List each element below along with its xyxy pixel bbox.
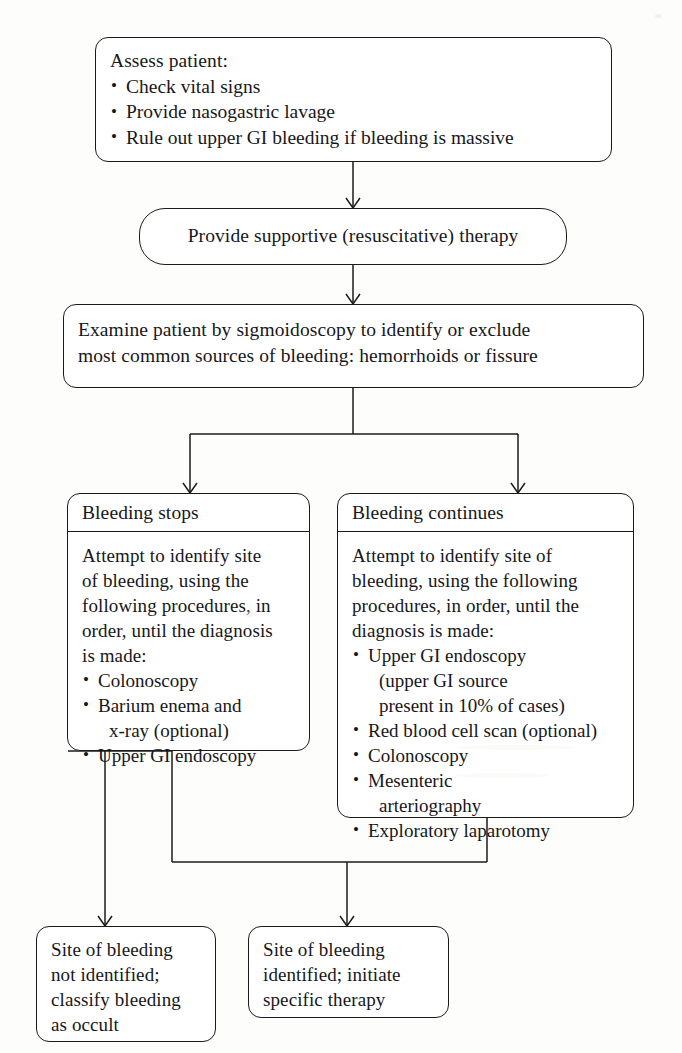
- stops-item-3: Upper GI endoscopy: [82, 743, 296, 768]
- bleeding-stops-body: Attempt to identify site of bleeding, us…: [68, 532, 309, 778]
- stops-line-4: order, until the diagnosis: [82, 618, 296, 643]
- paper-speckle: [655, 14, 662, 18]
- continues-item-2: Red blood cell scan (optional): [352, 718, 620, 743]
- continues-item-1: Upper GI endoscopy: [352, 643, 620, 668]
- occult-line-1: Site of bleeding: [51, 937, 202, 962]
- identified-body: Site of bleeding identified; initiate sp…: [249, 927, 448, 1022]
- arrowhead-examine: [346, 294, 360, 304]
- assess-bullet-3: Rule out upper GI bleeding if bleeding i…: [110, 125, 598, 151]
- node-bleeding-continues: Bleeding continues Attempt to identify s…: [337, 493, 634, 818]
- bleeding-continues-body: Attempt to identify site of bleeding, us…: [338, 532, 633, 853]
- continues-item-4: Mesenteric: [352, 768, 620, 793]
- assess-heading: Assess patient:: [110, 48, 598, 74]
- identified-line-2: identified; initiate: [263, 962, 435, 987]
- stops-item-1: Colonoscopy: [82, 668, 296, 693]
- examine-body: Examine patient by sigmoidoscopy to iden…: [64, 305, 643, 378]
- arrowhead-bleeding-continues: [511, 483, 525, 493]
- paper-speckle: [455, 773, 550, 778]
- continues-line-4: diagnosis is made:: [352, 618, 620, 643]
- stops-line-1: Attempt to identify site: [82, 543, 296, 568]
- continues-item-1-cont-2: present in 10% of cases): [352, 693, 620, 718]
- bleeding-stops-header-row: Bleeding stops: [68, 494, 309, 532]
- arrowhead-supportive: [346, 198, 360, 208]
- node-supportive-therapy: Provide supportive (resuscitative) thera…: [139, 208, 567, 265]
- node-assess-patient: Assess patient: Check vital signs Provid…: [95, 37, 612, 162]
- continues-item-1-cont-1: (upper GI source: [352, 668, 620, 693]
- continues-item-4-cont-1: arteriography: [352, 793, 620, 818]
- bleeding-continues-header-row: Bleeding continues: [338, 494, 633, 532]
- paper-speckle: [243, 611, 257, 617]
- continues-line-2: bleeding, using the following: [352, 568, 620, 593]
- occult-line-3: classify bleeding: [51, 987, 202, 1012]
- node-examine-patient: Examine patient by sigmoidoscopy to iden…: [63, 304, 644, 388]
- supportive-text: Provide supportive (resuscitative) thera…: [188, 223, 519, 249]
- arrowhead-identified: [340, 916, 354, 926]
- stops-line-2: of bleeding, using the: [82, 568, 296, 593]
- bleeding-continues-header: Bleeding continues: [352, 500, 620, 526]
- assess-bullet-2: Provide nasogastric lavage: [110, 99, 598, 125]
- arrowhead-occult: [98, 916, 112, 926]
- stops-item-2: Barium enema and: [82, 693, 296, 718]
- examine-line-1: Examine patient by sigmoidoscopy to iden…: [78, 317, 630, 343]
- stops-item-2-cont-1: x-ray (optional): [82, 718, 296, 743]
- continues-line-1: Attempt to identify site of: [352, 543, 620, 568]
- occult-line-2: not identified;: [51, 962, 202, 987]
- node-bleeding-stops: Bleeding stops Attempt to identify site …: [67, 493, 310, 751]
- examine-line-2: most common sources of bleeding: hemorrh…: [78, 343, 630, 369]
- node-site-not-identified: Site of bleeding not identified; classif…: [36, 926, 216, 1042]
- stops-line-5: is made:: [82, 643, 296, 668]
- arrowhead-bleeding-stops: [183, 483, 197, 493]
- supportive-body: Provide supportive (resuscitative) thera…: [140, 209, 566, 249]
- identified-line-3: specific therapy: [263, 987, 435, 1012]
- assess-bullet-1: Check vital signs: [110, 74, 598, 100]
- stops-line-3: following procedures, in: [82, 593, 296, 618]
- assess-body: Assess patient: Check vital signs Provid…: [96, 38, 611, 160]
- bleeding-stops-header: Bleeding stops: [82, 500, 296, 526]
- occult-body: Site of bleeding not identified; classif…: [37, 927, 215, 1047]
- identified-line-1: Site of bleeding: [263, 937, 435, 962]
- paper-speckle: [455, 745, 575, 750]
- node-site-identified: Site of bleeding identified; initiate sp…: [248, 926, 449, 1018]
- flowchart-page: Assess patient: Check vital signs Provid…: [0, 0, 682, 1053]
- continues-item-5: Exploratory laparotomy: [352, 818, 620, 843]
- occult-line-4: as occult: [51, 1012, 202, 1037]
- continues-line-3: procedures, in order, until the: [352, 593, 620, 618]
